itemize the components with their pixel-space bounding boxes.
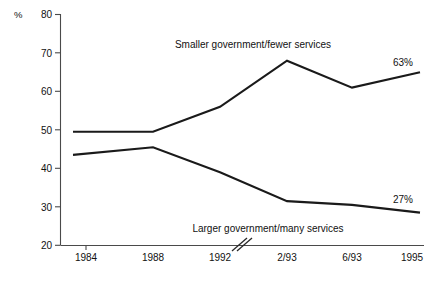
x-tick-label-1988: 1988: [142, 252, 165, 263]
x-tick-label-2-93: 2/93: [277, 252, 297, 263]
x-tick-label-6-93: 6/93: [342, 252, 362, 263]
series-line-larger-government: [73, 147, 420, 212]
x-tick-label-1995: 1995: [401, 252, 424, 263]
x-tick-label-1984: 1984: [75, 252, 98, 263]
line-chart: 80 70 60 50 40 30 20 % 1984 1988 1992 2/…: [0, 0, 434, 282]
chart-container: 80 70 60 50 40 30 20 % 1984 1988 1992 2/…: [0, 0, 434, 282]
y-tick-label-20: 20: [41, 240, 53, 251]
annotation-smaller-government: Smaller government/fewer services: [175, 39, 331, 50]
y-tick-label-30: 30: [41, 202, 53, 213]
end-value-label-27-percent: 27%: [393, 194, 413, 205]
y-tick-label-70: 70: [41, 48, 53, 59]
annotation-larger-government: Larger government/many services: [192, 223, 343, 234]
y-tick-label-80: 80: [41, 9, 53, 20]
y-tick-label-40: 40: [41, 163, 53, 174]
end-value-label-63-percent: 63%: [393, 57, 413, 68]
axis-break-marker: [232, 238, 252, 251]
y-axis-unit-label: %: [14, 9, 23, 20]
series-line-smaller-government: [73, 61, 420, 132]
y-tick-label-50: 50: [41, 125, 53, 136]
x-tick-label-1992: 1992: [209, 252, 232, 263]
y-tick-label-60: 60: [41, 86, 53, 97]
